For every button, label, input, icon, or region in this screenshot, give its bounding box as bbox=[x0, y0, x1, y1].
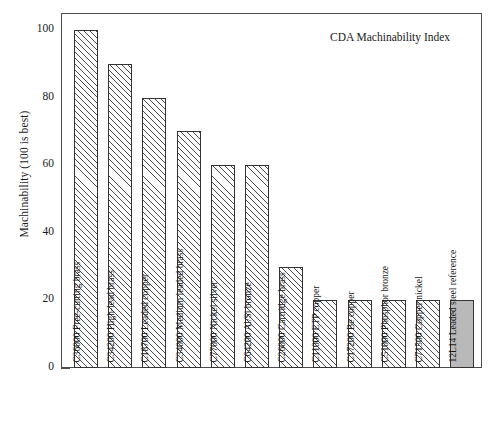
bar-category-label: C18700 Leaded copper bbox=[141, 273, 151, 362]
bar-category-label: 12L14 Leaded steel reference bbox=[449, 249, 459, 362]
y-tick-label: 60 bbox=[20, 157, 54, 169]
y-tick-mark bbox=[61, 368, 70, 369]
bar-category-label: C64200 Al/Si bronze bbox=[244, 282, 254, 362]
bar-category-label: C11000 ETP copper bbox=[312, 285, 322, 362]
bar-category-label: C36000 Free-cutting brass bbox=[73, 261, 83, 362]
bar-group: C18700 Leaded copper bbox=[142, 13, 166, 368]
y-tick-label: 40 bbox=[20, 225, 54, 237]
bar-category-label: C71500 Copper nickel bbox=[415, 276, 425, 362]
bar-group: C51000 Phosphor bronze bbox=[382, 13, 406, 368]
bar-group: C77000 Nickel silver bbox=[211, 13, 235, 368]
bar-category-label: C34000 Medium leaded brass bbox=[175, 248, 185, 362]
bar-group: C17200 Be copper bbox=[348, 13, 372, 368]
bar-group: C26000 Cartridge brass bbox=[279, 13, 303, 368]
bar-category-label: C51000 Phosphor bronze bbox=[380, 265, 390, 362]
y-tick-label: 0 bbox=[20, 360, 54, 372]
bar-category-label: C17200 Be copper bbox=[346, 291, 356, 362]
bar-group: C36000 Free-cutting brass bbox=[74, 13, 98, 368]
bar-group: C34200 High-lead brass bbox=[108, 13, 132, 368]
bar-group: C71500 Copper nickel bbox=[416, 13, 440, 368]
y-tick-label: 20 bbox=[20, 292, 54, 304]
bar-category-label: C34200 High-lead brass bbox=[107, 270, 117, 362]
bar-category-label: C26000 Cartridge brass bbox=[278, 272, 288, 362]
bar-group: C11000 ETP copper bbox=[313, 13, 337, 368]
bar-group: C34000 Medium leaded brass bbox=[177, 13, 201, 368]
y-tick-label: 100 bbox=[20, 22, 54, 34]
bar-category-label: C77000 Nickel silver bbox=[209, 281, 219, 362]
y-tick-label: 80 bbox=[20, 90, 54, 102]
bar-series: C36000 Free-cutting brassC34200 High-lea… bbox=[61, 13, 482, 368]
chart-root: Machinability (100 is best) 020406080100… bbox=[0, 0, 495, 421]
bar-group: C64200 Al/Si bronze bbox=[245, 13, 269, 368]
bar-group: 12L14 Leaded steel reference bbox=[450, 13, 474, 368]
